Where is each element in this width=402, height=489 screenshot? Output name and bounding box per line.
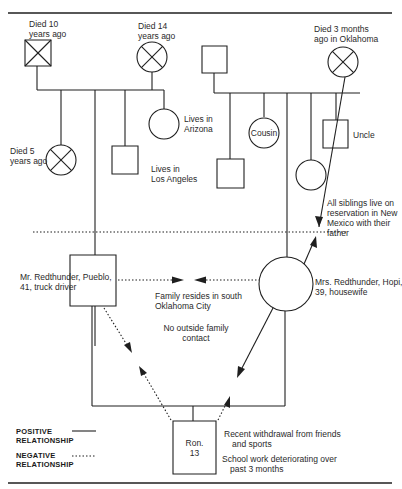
uncle-los-angeles-symbol xyxy=(112,146,138,174)
uncle-los-angeles-label: Lives in Los Angeles xyxy=(151,164,197,184)
child-age: 13 xyxy=(173,448,216,458)
label-line: past 3 months xyxy=(222,464,337,474)
cousin-square-symbol xyxy=(217,159,244,188)
aunt-arizona-symbol xyxy=(149,109,179,139)
label-line: RELATIONSHIP xyxy=(16,460,74,469)
label-line: Recent withdrawal from friends xyxy=(224,429,341,439)
paternal-grandmother-label: Died 14 years ago xyxy=(138,21,175,41)
father-label: Mr. Redthunder, Pueblo, 41, truck driver xyxy=(20,272,112,292)
paternal-grandfather-symbol xyxy=(25,40,51,66)
label-line: 39, housewife xyxy=(315,287,402,297)
mother-symbol xyxy=(259,257,313,311)
label-line: Mrs. Redthunder, Hopi, xyxy=(315,277,402,287)
label-line: years ago xyxy=(10,156,47,166)
label-line: Died 5 xyxy=(10,146,47,156)
label-line: father xyxy=(327,228,397,238)
label-line: Died 3 months xyxy=(314,24,378,34)
label-line: Mr. Redthunder, Pueblo, xyxy=(20,272,112,282)
label-line: RELATIONSHIP xyxy=(16,436,74,445)
maternal-grandmother-symbol xyxy=(328,47,358,77)
label-line: Lives in xyxy=(151,164,197,174)
aunt-arizona-label: Lives in Arizona xyxy=(184,114,213,134)
legend-positive-label: POSITIVE RELATIONSHIP xyxy=(16,427,74,445)
label-line: No outside family xyxy=(160,323,232,333)
label-line: Family resides in south xyxy=(155,291,242,301)
label-line: Arizona xyxy=(184,124,213,134)
label-line: Oklahoma City xyxy=(155,301,242,311)
paternal-grandmother-symbol xyxy=(137,42,167,72)
label-line: years ago xyxy=(138,31,175,41)
label-line: School work deteriorating over xyxy=(222,454,337,464)
label-line: years ago xyxy=(29,29,66,39)
siblings-note: All siblings live on reservation in New … xyxy=(327,198,397,238)
child-note-withdrawal: Recent withdrawal from friends and sport… xyxy=(224,429,341,449)
aunt-deceased-symbol xyxy=(46,145,76,175)
label-line: Died 14 xyxy=(138,21,175,31)
maternal-grandmother-label: Died 3 months ago in Oklahoma xyxy=(314,24,378,44)
label-line: POSITIVE xyxy=(16,427,74,436)
label-line: All siblings live on xyxy=(327,198,397,208)
aunt-circle-symbol xyxy=(296,160,326,190)
child-name: Ron. xyxy=(173,438,216,448)
contact-note: No outside family contact xyxy=(160,323,232,343)
mother-label: Mrs. Redthunder, Hopi, 39, housewife xyxy=(315,277,402,297)
residence-note: Family resides in south Oklahoma City xyxy=(155,291,242,311)
child-ron-label: Ron. 13 xyxy=(173,438,216,458)
label-line: Died 10 xyxy=(29,19,66,29)
label-line: NEGATIVE xyxy=(16,451,74,460)
label-line: Mexico with their xyxy=(327,218,397,228)
label-line: 41, truck driver xyxy=(20,282,112,292)
label-line: Lives in xyxy=(184,114,213,124)
label-line: and sports xyxy=(224,439,341,449)
paternal-grandfather-label: Died 10 years ago xyxy=(29,19,66,39)
label-line: reservation in New xyxy=(327,208,397,218)
label-line: contact xyxy=(160,333,232,343)
maternal-grandfather-symbol xyxy=(202,46,227,73)
child-note-schoolwork: School work deteriorating over past 3 mo… xyxy=(222,454,337,474)
aunt-deceased-label: Died 5 years ago xyxy=(10,146,47,166)
label-line: Los Angeles xyxy=(151,174,197,184)
label-line: ago in Oklahoma xyxy=(314,34,378,44)
legend-negative-label: NEGATIVE RELATIONSHIP xyxy=(16,451,74,469)
uncle-label: Uncle xyxy=(353,130,375,140)
cousin-label: Cousin xyxy=(249,128,279,138)
